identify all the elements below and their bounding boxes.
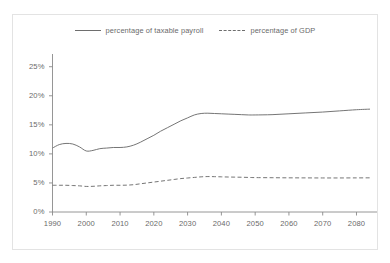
chart-screenshot: percentage of taxable payroll percentage… <box>0 0 390 263</box>
x-tick-label: 2070 <box>306 219 340 228</box>
y-tick-label: 10% <box>21 149 45 158</box>
x-tick-label: 1990 <box>36 219 70 228</box>
y-tick-label: 5% <box>21 178 45 187</box>
tick-marks-group <box>49 67 356 216</box>
x-tick-label: 2020 <box>137 219 171 228</box>
x-tick-label: 2080 <box>339 219 373 228</box>
axes-group <box>53 54 378 212</box>
series-line-dashed <box>53 177 371 187</box>
series-line-solid <box>53 109 371 151</box>
x-tick-label: 2030 <box>171 219 205 228</box>
x-tick-label: 2000 <box>69 219 103 228</box>
y-tick-label: 15% <box>21 120 45 129</box>
x-tick-label: 2010 <box>103 219 137 228</box>
x-tick-label: 2040 <box>204 219 238 228</box>
plot-area: 0%5%10%15%20%25% 19902000201020202030204… <box>0 0 390 263</box>
y-tick-label: 25% <box>21 62 45 71</box>
y-tick-label: 20% <box>21 91 45 100</box>
x-tick-label: 2060 <box>272 219 306 228</box>
x-tick-label: 2050 <box>238 219 272 228</box>
data-series-group <box>53 109 371 186</box>
y-tick-label: 0% <box>21 207 45 216</box>
